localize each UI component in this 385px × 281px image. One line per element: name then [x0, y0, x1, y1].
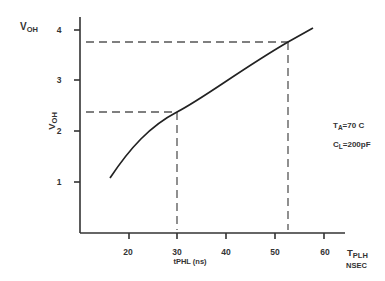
- x-tick-20: 20: [123, 247, 133, 257]
- y-tick-2: 2: [57, 126, 62, 136]
- y-tick-3: 3: [57, 75, 62, 85]
- y-label-top: VOH: [20, 21, 38, 34]
- x-tick-50: 50: [270, 247, 280, 257]
- x-tick-60: 60: [320, 247, 330, 257]
- x-label-right: TPLH: [347, 247, 368, 260]
- x-ticks: [129, 233, 324, 239]
- ta-annotation: TA=70 C: [333, 121, 364, 131]
- x-tick-labels: 20 30 40 50 60: [123, 247, 330, 257]
- cl-annotation: CL=200pF: [333, 140, 371, 150]
- x-label-right-unit: NSEC: [346, 261, 367, 270]
- y-tick-1: 1: [57, 177, 62, 187]
- axes: [80, 17, 345, 233]
- chart: 4 3 2 1 20 30 40 50 60 VOH VOH tPHL (ns)…: [0, 0, 385, 281]
- y-tick-4: 4: [57, 25, 62, 35]
- voh-curve: [110, 28, 313, 178]
- y-tick-labels: 4 3 2 1: [57, 25, 62, 187]
- dashed-guides: [86, 42, 288, 230]
- x-tick-40: 40: [221, 247, 231, 257]
- x-tick-30: 30: [172, 247, 182, 257]
- x-label-mid: tPHL (ns): [173, 257, 207, 266]
- y-ticks: [74, 30, 80, 182]
